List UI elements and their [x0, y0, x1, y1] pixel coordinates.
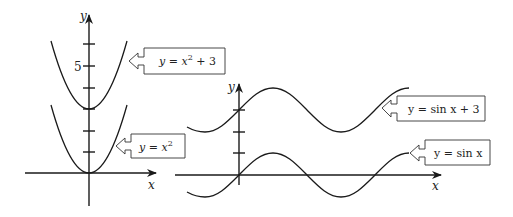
curve-sin-x-plus-3 — [187, 88, 409, 132]
callout-sin-x: y = sin x — [410, 140, 490, 165]
left-graph: 5 y x y = x2 + 3 y = x2 — [25, 9, 225, 206]
callout-x-squared: y = x2 — [116, 134, 185, 158]
label-x2-exp: 2 — [168, 139, 173, 148]
callout-x-squared-plus-3: y = x2 + 3 — [129, 48, 225, 74]
right-graph: y x y = sin x + 3 y = sin x — [175, 80, 490, 197]
left-tick-label-5: 5 — [74, 60, 82, 74]
left-x-axis-label: x — [148, 178, 155, 192]
right-y-axis-label: y — [227, 80, 235, 94]
label-x2-main: y = x — [138, 141, 168, 154]
left-y-axis-label: y — [79, 9, 87, 23]
svg-text:y = x2: y = x2 — [138, 139, 173, 154]
function-shift-diagram: 5 y x y = x2 + 3 y = x2 y — [0, 0, 513, 217]
svg-text:y = x2 + 3: y = x2 + 3 — [158, 53, 216, 68]
label-x2p3-tail: + 3 — [193, 55, 216, 68]
label-x2p3-main: y = x — [158, 55, 188, 68]
callout-sin-x-plus-3: y = sin x + 3 — [382, 96, 485, 121]
label-sin-x: y = sin x — [433, 147, 483, 160]
right-x-axis-label: x — [432, 179, 439, 193]
label-sin-x-plus-3: y = sin x + 3 — [407, 103, 480, 116]
